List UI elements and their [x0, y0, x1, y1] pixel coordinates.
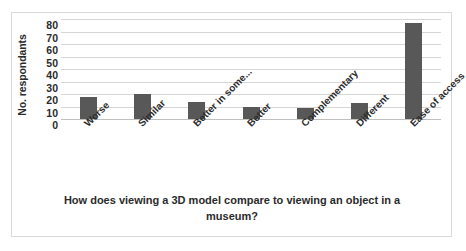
y-axis-tick-label: 20 [30, 95, 58, 106]
y-axis-tick-label: 50 [30, 57, 58, 68]
chart-container: No. respondants 80706050403020100 WorseS… [11, 12, 452, 237]
y-axis-title: No. respondants [15, 25, 29, 125]
y-axis-tick-label: 10 [30, 107, 58, 118]
y-axis-tick-label: 70 [30, 32, 58, 43]
y-axis-tick-label: 80 [30, 20, 58, 31]
y-axis-tick-label: 0 [30, 120, 58, 131]
y-axis-title-text: No. respondants [16, 34, 28, 115]
y-axis-tick-label: 40 [30, 70, 58, 81]
y-axis-tick-label: 30 [30, 82, 58, 93]
y-axis-tick-labels: 80706050403020100 [30, 19, 58, 119]
x-axis-title: How does viewing a 3D model compare to v… [42, 193, 422, 225]
bar [405, 23, 422, 119]
x-axis-category-labels: WorseSimilarBetter in some...BetterCompl… [61, 121, 461, 191]
y-axis-tick-label: 60 [30, 45, 58, 56]
